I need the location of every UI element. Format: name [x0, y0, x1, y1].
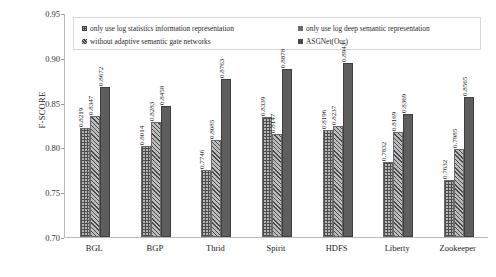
- bar-liberty-series3: 0.8369: [403, 114, 413, 237]
- bar-value-label: 0.8219: [77, 108, 85, 127]
- bar-value-label: 0.8085: [208, 120, 216, 139]
- x-tick-spirit: Spirit: [267, 243, 286, 253]
- bar-bgl-series1: 0.8219: [80, 128, 90, 237]
- bar-value-label: 0.8014: [138, 126, 146, 145]
- x-tick-zookeeper: Zookeeper: [440, 243, 476, 253]
- bar-value-label: 0.8196: [320, 110, 328, 129]
- bar-value-label: 0.8369: [400, 94, 408, 113]
- bar-hdfs-series3: 0.8943: [343, 63, 353, 237]
- bar-value-label: 0.8237: [330, 106, 338, 125]
- y-tick-mark: [61, 238, 64, 239]
- plot-area: only use log statistics information repr…: [64, 14, 488, 238]
- bar-spirit-series3: 0.8878: [282, 69, 292, 237]
- bar-zookeeper-series2: 0.7985: [454, 149, 464, 237]
- x-tick-bgl: BGL: [86, 243, 103, 253]
- bar-value-label: 0.8878: [279, 48, 287, 67]
- bar-value-label: 0.7746: [198, 150, 206, 169]
- bar-bgp-series3: 0.8458: [161, 106, 171, 237]
- y-tick-0.70: 0.70: [24, 233, 60, 243]
- bar-chart: F-SCORE 0.700.750.800.850.900.95 only us…: [0, 0, 496, 277]
- bar-bgl-series3: 0.8672: [100, 87, 110, 237]
- x-tick-bgp: BGP: [147, 243, 164, 253]
- bar-liberty-series1: 0.7832: [383, 162, 393, 237]
- y-tick-0.85: 0.85: [24, 99, 60, 109]
- bar-zookeeper-series3: 0.8565: [464, 97, 474, 237]
- bar-value-label: 0.8347: [87, 96, 95, 115]
- bar-value-label: 0.8458: [158, 86, 166, 105]
- bar-group-liberty: 0.78320.81690.8369: [383, 13, 413, 237]
- bar-hdfs-series1: 0.8196: [323, 130, 333, 237]
- bar-hdfs-series2: 0.8237: [333, 126, 343, 237]
- y-tick-0.75: 0.75: [24, 188, 60, 198]
- bar-bgl-series2: 0.8347: [90, 116, 100, 237]
- y-tick-0.95: 0.95: [24, 9, 60, 19]
- bar-group-bgp: 0.80140.82830.8458: [141, 13, 171, 237]
- bar-zookeeper-series1: 0.7632: [444, 180, 454, 237]
- bar-thrid-series2: 0.8085: [211, 140, 221, 237]
- bar-value-label: 0.7985: [451, 129, 459, 148]
- legend-swatch-icon-3: [298, 39, 303, 44]
- bar-thrid-series1: 0.7746: [201, 170, 211, 237]
- x-tick-thrid: Thrid: [206, 243, 225, 253]
- bar-value-label: 0.8169: [390, 112, 398, 131]
- bar-value-label: 0.7832: [380, 142, 388, 161]
- bar-thrid-series3: 0.8763: [221, 79, 231, 237]
- bar-value-label: 0.8565: [461, 77, 469, 96]
- bar-bgp-series1: 0.8014: [141, 146, 151, 237]
- bar-spirit-series2: 0.8147: [272, 134, 282, 237]
- bar-value-label: 0.8283: [148, 102, 156, 121]
- bar-value-label: 0.7632: [441, 160, 449, 179]
- bar-bgp-series2: 0.8283: [151, 122, 161, 237]
- bar-group-thrid: 0.77460.80850.8763: [201, 13, 231, 237]
- bar-liberty-series2: 0.8169: [393, 132, 403, 237]
- bar-value-label: 0.8943: [340, 43, 348, 62]
- bar-group-zookeeper: 0.76320.79850.8565: [444, 13, 474, 237]
- bar-group-hdfs: 0.81960.82370.8943: [323, 13, 353, 237]
- bar-value-label: 0.8147: [269, 114, 277, 133]
- bar-value-label: 0.8672: [97, 67, 105, 86]
- bar-group-bgl: 0.82190.83470.8672: [80, 13, 110, 237]
- y-axis-title: F-SCORE: [37, 70, 47, 150]
- bar-spirit-series1: 0.8339: [262, 117, 272, 237]
- legend-swatch-icon-1: [298, 26, 303, 31]
- x-tick-hdfs: HDFS: [326, 243, 348, 253]
- y-tick-0.90: 0.90: [24, 54, 60, 64]
- x-tick-liberty: Liberty: [385, 243, 410, 253]
- bar-value-label: 0.8763: [218, 59, 226, 78]
- y-tick-0.80: 0.80: [24, 143, 60, 153]
- bar-value-label: 0.8339: [259, 97, 267, 116]
- bar-group-spirit: 0.83390.81470.8878: [262, 13, 292, 237]
